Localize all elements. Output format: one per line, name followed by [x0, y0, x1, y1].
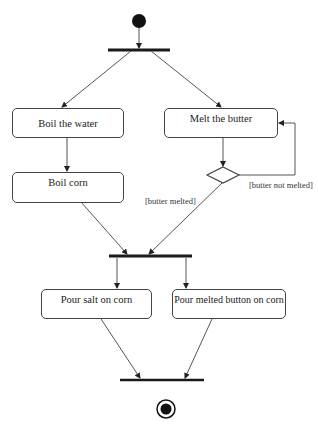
activity-label: Pour salt on corn: [61, 294, 132, 305]
activity-boil-corn: Boil corn: [12, 172, 124, 203]
activity-pour-salt: Pour salt on corn: [41, 289, 152, 319]
guard-butter-melted: [butter melted]: [145, 196, 196, 206]
activity-label: Boil corn: [48, 177, 87, 188]
activity-pour-butter: Pour melted button on corn: [172, 289, 286, 319]
edge-fork-to-melt-butter: [151, 51, 221, 107]
edge-boil-corn-to-join: [81, 202, 127, 254]
activity-diagram-canvas: [0, 0, 318, 431]
final-node-inner-icon: [161, 404, 172, 415]
edge-pour-butter-to-join: [185, 319, 212, 378]
activity-melt-butter: Melt the butter: [164, 108, 278, 138]
decision-node-icon: [207, 167, 239, 183]
activity-label: Boil the water: [38, 118, 97, 129]
edge-decision-melted-to-join: [149, 183, 222, 254]
edge-pour-salt-to-join: [101, 319, 140, 378]
guard-butter-not-melted: [butter not melted]: [249, 180, 313, 190]
activity-label: Pour melted button on corn: [174, 294, 283, 305]
initial-node-icon: [132, 14, 146, 28]
edge-fork-to-boil-water: [62, 51, 131, 107]
activity-boil-water: Boil the water: [12, 108, 124, 138]
activity-label: Melt the butter: [190, 113, 252, 124]
